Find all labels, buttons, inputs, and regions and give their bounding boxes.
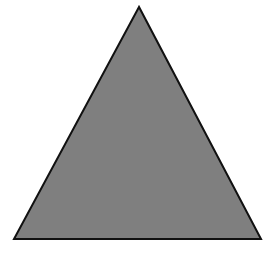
triangle-shape: [14, 7, 261, 239]
diagram-canvas: [0, 0, 276, 256]
triangle-figure: [0, 0, 276, 256]
